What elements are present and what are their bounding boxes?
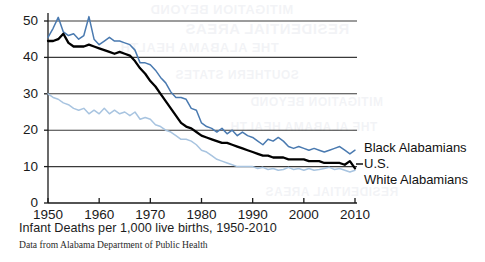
x-tick-label: 2010	[333, 208, 377, 221]
legend-label-white-alabamians: White Alabamians	[364, 173, 468, 187]
legend-label-us: U.S.	[364, 157, 389, 171]
x-tick-label: 1990	[231, 208, 275, 221]
gridlines	[48, 21, 357, 167]
y-tick-label: 50	[8, 14, 38, 27]
y-tick-label: 40	[8, 50, 38, 63]
y-tick-label: 20	[8, 123, 38, 136]
x-tick-label: 1960	[77, 208, 121, 221]
x-tick-label: 1980	[180, 208, 224, 221]
chart-source-note: Data from Alabama Department of Public H…	[19, 239, 208, 250]
axes	[48, 13, 357, 203]
chart-caption: Infant Deaths per 1,000 live births, 195…	[19, 221, 277, 235]
legend-label-black-alabamians: Black Alabamians	[364, 141, 467, 155]
x-tick-label: 1950	[26, 208, 70, 221]
y-tick-label: 10	[8, 160, 38, 173]
x-tick-label: 1970	[128, 208, 172, 221]
x-tick-label: 2000	[282, 208, 326, 221]
infant-mortality-chart: MITIGATION BEYOND RESIDENTIAL AREAS THE …	[0, 0, 485, 262]
y-tick-label: 30	[8, 87, 38, 100]
